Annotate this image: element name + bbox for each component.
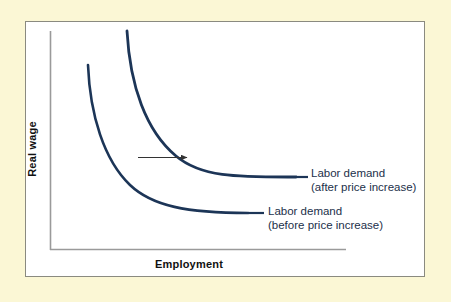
curve-label-after-line1: Labor demand (311, 167, 416, 181)
curve-label-before-line1: Labor demand (268, 205, 383, 219)
curve-label-after: Labor demand (after price increase) (311, 167, 416, 194)
y-axis-title: Real wage (26, 104, 38, 194)
curve-label-after-line2: (after price increase) (311, 181, 416, 195)
curve-label-before: Labor demand (before price increase) (268, 205, 383, 232)
chart-panel (25, 21, 425, 277)
x-axis-title: Employment (155, 258, 223, 270)
figure-container: Real wage Employment Labor demand (after… (0, 0, 451, 302)
curve-label-before-line2: (before price increase) (268, 219, 383, 233)
